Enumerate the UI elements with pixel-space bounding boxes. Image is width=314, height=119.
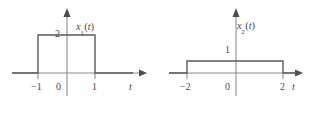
y-axis-arrow-icon: [233, 8, 240, 17]
signal-label-x2-subscript: 2: [241, 28, 245, 36]
pulse-waveform-x1: [12, 35, 133, 73]
y-tick-label-amplitude: 2: [55, 29, 60, 39]
x-axis-label-t: t: [129, 82, 132, 92]
plot-x2-canvas: [157, 0, 314, 119]
signal-label-x1-arg-close: ): [91, 21, 95, 32]
plot-x1: 2 x1(t) −1 0 1 t: [0, 0, 157, 119]
plot-x1-canvas: [0, 0, 157, 119]
x-tick-label-plus1: 1: [92, 82, 97, 92]
signal-label-x2: x2(t): [237, 21, 255, 34]
x-tick-label-minus2: −2: [180, 82, 191, 92]
x-tick-label-plus2: 2: [280, 82, 285, 92]
signal-label-x1: x1(t): [76, 22, 94, 35]
x-axis-arrow-icon: [295, 70, 303, 77]
x-axis-arrow-icon: [139, 70, 147, 77]
x-tick-label-origin: 0: [225, 82, 230, 92]
x-tick-label-minus1: −1: [31, 82, 42, 92]
plot-x2: 1 x2(t) −2 0 2 t: [157, 0, 314, 119]
x-axis-label-t: t: [292, 82, 295, 92]
signal-label-x1-subscript: 1: [80, 29, 84, 37]
y-axis-arrow-icon: [64, 8, 71, 17]
signal-label-x2-arg-close: ): [252, 20, 256, 31]
x-tick-label-origin: 0: [56, 82, 61, 92]
signal-plots-figure: 2 x1(t) −1 0 1 t 1 x2(t) −2 0: [0, 0, 314, 119]
pulse-waveform-x2: [169, 61, 296, 73]
y-tick-label-amplitude: 1: [225, 45, 230, 55]
